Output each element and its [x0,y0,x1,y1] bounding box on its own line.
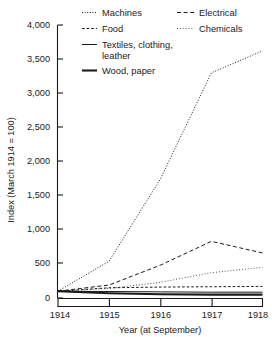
series-line-machines [58,51,263,291]
y-tick-label: 3,000 [27,88,50,98]
legend-label-wood-paper: Wood, paper [102,66,155,76]
line-chart: Index (March 1914 = 100) 4,000 3,500 3,0… [0,0,272,337]
series-line-electrical [58,241,263,291]
x-tick-label: 1916 [151,310,171,320]
x-tick-label: 1914 [50,310,70,320]
series-layer [58,51,263,295]
x-tick-label: 1918 [248,310,268,320]
y-tick-label: 2,000 [27,156,50,166]
y-axis-tick-labels: 4,000 3,500 3,000 2,500 2,000 1,500 1,00… [27,20,50,303]
chart-legend: Machines Electrical Food Chemicals Texti… [82,8,243,76]
series-line-chemicals [58,267,263,291]
y-tick-label: 3,500 [27,54,50,64]
y-tick-label: 0 [45,293,50,303]
y-axis-title: Index (March 1914 = 100) [6,117,16,222]
y-axis-ticks [58,25,64,298]
y-tick-label: 500 [35,258,50,268]
x-tick-label: 1915 [99,310,119,320]
legend-label-food: Food [102,24,123,34]
legend-label-textiles-line2: leather [102,51,130,61]
y-tick-label: 1,500 [27,190,50,200]
y-tick-label: 2,500 [27,122,50,132]
y-tick-label: 1,000 [27,224,50,234]
chart-container: Index (March 1914 = 100) 4,000 3,500 3,0… [0,0,272,337]
legend-label-electrical: Electrical [199,8,237,18]
x-axis-title: Year (at September) [119,325,201,335]
legend-label-chemicals: Chemicals [199,24,243,34]
x-tick-label: 1917 [202,310,222,320]
x-axis-tick-labels: 1914 1915 1916 1917 1918 [50,310,268,320]
legend-label-textiles: Textiles, clothing, [102,40,173,50]
y-tick-label: 4,000 [27,20,50,30]
legend-label-machines: Machines [102,8,142,18]
series-line-food [58,286,263,291]
x-axis-ticks [58,299,263,307]
